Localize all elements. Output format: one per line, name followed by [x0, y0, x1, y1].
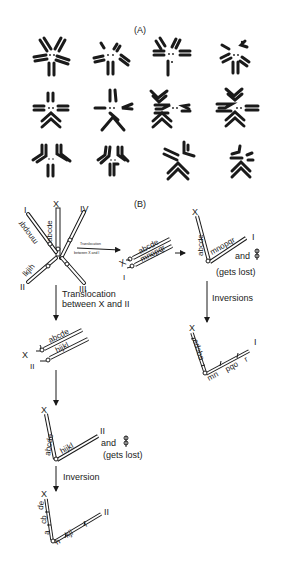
configuration-a11 — [164, 142, 194, 179]
x-label-final: X — [41, 489, 47, 499]
i-label-inverted: I — [254, 337, 257, 347]
configuration-a4 — [221, 41, 249, 73]
arrow-label-line1: Translocation — [80, 242, 101, 246]
x-label-inverted: X — [189, 323, 195, 333]
chromosome-iv-label: IV — [80, 204, 89, 214]
and-text-1: and — [235, 251, 250, 261]
x-label-fused: X — [192, 207, 198, 217]
x-label-translocated: X — [117, 257, 127, 269]
chromosome-x-label: X — [53, 199, 59, 209]
chromosome-ii-label: II — [20, 282, 25, 292]
initial-chromosome-set — [28, 208, 84, 283]
centromere-fragment-icon-2 — [124, 436, 128, 447]
configuration-a7 — [151, 91, 190, 127]
x-label-pair-ii: X — [22, 350, 28, 360]
configuration-a3 — [154, 38, 190, 75]
gets-lost-text-1: (gets lost) — [216, 267, 256, 277]
genes-x-final-2: cb — [39, 514, 49, 524]
and-text-2: and — [101, 438, 116, 448]
genes-x-initial: abcde — [45, 220, 54, 242]
configuration-a6 — [95, 90, 132, 130]
configuration-a2 — [94, 43, 129, 74]
genes-x-fused: abcde — [196, 234, 205, 256]
gets-lost-text-2: (gets lost) — [103, 450, 143, 460]
translocation-x-ii-label-1: Translocation — [62, 289, 116, 299]
genes-x-inverted: edcba — [191, 337, 206, 361]
configuration-a5 — [34, 93, 68, 127]
centromere-fragment-icon-1 — [255, 249, 259, 260]
arrow-label-line2: between X and I — [74, 251, 99, 255]
configuration-a1 — [34, 38, 69, 75]
ii-label-pair: II — [30, 362, 34, 371]
ii-label-fused: II — [100, 426, 105, 436]
panel-b-label: (B) — [134, 199, 146, 209]
x-label-fused-ii: X — [41, 405, 47, 415]
i-label-fused: I — [252, 232, 255, 242]
genes-x-final-1: de — [36, 500, 46, 510]
configuration-a8 — [217, 89, 258, 126]
genes-i-inverted-3: r — [243, 354, 250, 363]
i-label-translocated: I — [123, 273, 125, 282]
inversion-label: Inversion — [63, 472, 100, 482]
configuration-a10 — [98, 147, 128, 175]
karyotype-diagram: (A) — [0, 0, 282, 564]
configuration-a12 — [231, 146, 253, 177]
inversions-label: Inversions — [212, 293, 254, 303]
panel-a-label: (A) — [134, 25, 146, 35]
configuration-a9 — [33, 145, 70, 176]
chromosome-i-label: I — [24, 205, 27, 215]
ii-label-final: II — [104, 507, 109, 517]
translocation-arrow-x-i — [77, 248, 120, 250]
translocation-x-ii-label-2: between X and II — [62, 299, 130, 309]
genes-ii-fused: hijkl — [59, 441, 76, 456]
